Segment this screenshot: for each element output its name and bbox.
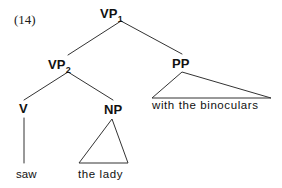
np-triangle: [79, 119, 128, 163]
node-v-subscript: [28, 109, 29, 119]
syntax-tree-figure: (14) VP1 VP2 PP V NP saw the lady with t…: [0, 0, 282, 188]
node-v-label: V: [19, 101, 28, 116]
branch-vp2-v: [24, 72, 68, 100]
terminal-with-the-binoculars: with the binoculars: [152, 99, 259, 111]
pp-triangle: [152, 72, 271, 98]
node-vp1: VP1: [100, 6, 123, 24]
node-pp-label: PP: [172, 56, 189, 71]
node-vp2-subscript: 2: [65, 65, 71, 75]
terminal-the-lady: the lady: [78, 168, 123, 180]
branch-vp1-vp2: [68, 21, 121, 55]
node-v: V: [19, 101, 28, 119]
node-np-subscript: [122, 110, 123, 120]
node-np: NP: [104, 102, 123, 120]
node-vp1-label: VP: [100, 6, 117, 21]
branch-vp2-np: [68, 72, 113, 100]
node-vp2-label: VP: [48, 57, 65, 72]
node-pp: PP: [172, 56, 190, 74]
tree-branch-lines: [0, 0, 282, 188]
node-pp-subscript: [189, 64, 190, 74]
terminal-saw: saw: [16, 168, 36, 180]
branch-vp1-pp: [121, 21, 182, 54]
node-vp1-subscript: 1: [117, 14, 123, 24]
node-vp2: VP2: [48, 57, 71, 75]
node-np-label: NP: [104, 102, 122, 117]
